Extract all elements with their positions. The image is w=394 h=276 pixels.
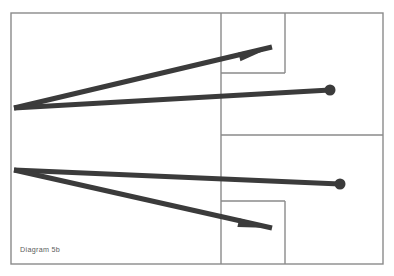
outer-frame-rect	[11, 13, 383, 264]
endpoint-dot-upper	[325, 85, 336, 96]
figure-caption: Diagram 5b	[20, 245, 60, 254]
arrowhead-icon-lower	[237, 218, 272, 228]
ray-paths-group	[14, 47, 340, 228]
diagram-svg: Diagram 5b	[0, 0, 394, 276]
diagram-canvas: Diagram 5b	[0, 0, 394, 276]
endpoint-dot-lower	[335, 179, 346, 190]
